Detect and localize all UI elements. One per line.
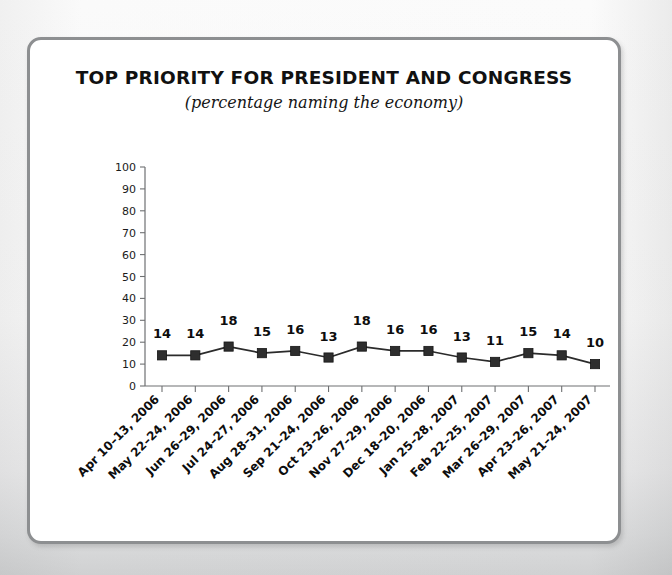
y-tick-label: 40 bbox=[122, 292, 136, 305]
data-point-label: 16 bbox=[286, 322, 304, 337]
data-point-marker bbox=[557, 351, 566, 360]
data-point-label: 14 bbox=[153, 326, 171, 341]
y-tick-label: 60 bbox=[122, 249, 136, 262]
data-point-label: 14 bbox=[553, 326, 571, 341]
data-point-label: 16 bbox=[386, 322, 404, 337]
y-tick-label: 90 bbox=[122, 183, 136, 196]
data-point-marker bbox=[291, 346, 300, 355]
data-point-label: 15 bbox=[253, 324, 271, 339]
data-point-marker bbox=[324, 353, 333, 362]
y-tick-label: 30 bbox=[122, 314, 136, 327]
data-point-label: 13 bbox=[319, 329, 337, 344]
data-point-marker bbox=[457, 353, 466, 362]
y-tick-label: 100 bbox=[115, 161, 136, 174]
y-tick-label: 10 bbox=[122, 358, 136, 371]
chart-card-frame: TOP PRIORITY FOR PRESIDENT AND CONGRESS … bbox=[27, 37, 621, 544]
data-point-marker bbox=[590, 360, 599, 369]
data-point-marker bbox=[157, 351, 166, 360]
data-point-marker bbox=[357, 342, 366, 351]
line-chart-svg: 0102030405060708090100 14141815161318161… bbox=[30, 40, 624, 547]
plot-area: 0102030405060708090100 14141815161318161… bbox=[30, 40, 624, 547]
y-axis: 0102030405060708090100 bbox=[115, 161, 145, 393]
series-economy bbox=[157, 342, 599, 369]
data-point-label: 18 bbox=[353, 313, 371, 328]
data-point-marker bbox=[424, 346, 433, 355]
data-point-label: 18 bbox=[220, 313, 238, 328]
data-point-marker bbox=[191, 351, 200, 360]
data-point-marker bbox=[257, 349, 266, 358]
y-tick-label: 80 bbox=[122, 205, 136, 218]
x-tick-labels: Apr 10–13, 2006May 22–24, 2006Jun 26–29,… bbox=[75, 392, 595, 482]
data-point-label: 15 bbox=[519, 324, 537, 339]
data-point-marker bbox=[490, 357, 499, 366]
x-axis bbox=[145, 386, 610, 392]
data-labels: 1414181516131816161311151410 bbox=[153, 313, 604, 351]
data-point-label: 14 bbox=[186, 326, 204, 341]
data-point-marker bbox=[524, 349, 533, 358]
data-point-label: 16 bbox=[419, 322, 437, 337]
data-point-label: 13 bbox=[453, 329, 471, 344]
data-point-label: 10 bbox=[586, 335, 604, 350]
data-point-marker bbox=[224, 342, 233, 351]
y-tick-label: 70 bbox=[122, 227, 136, 240]
y-tick-label: 50 bbox=[122, 271, 136, 284]
data-point-marker bbox=[391, 346, 400, 355]
y-tick-label: 20 bbox=[122, 336, 136, 349]
y-tick-label: 0 bbox=[129, 380, 136, 393]
data-point-label: 11 bbox=[486, 333, 504, 348]
